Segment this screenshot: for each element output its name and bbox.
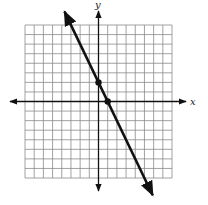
x-axis-label: x xyxy=(190,96,196,107)
axes xyxy=(10,11,186,191)
plotted-line xyxy=(65,12,153,196)
y-axis-label: y xyxy=(94,0,101,10)
data-point xyxy=(104,98,110,104)
data-point xyxy=(95,79,101,85)
coordinate-plane: x y xyxy=(0,0,208,205)
